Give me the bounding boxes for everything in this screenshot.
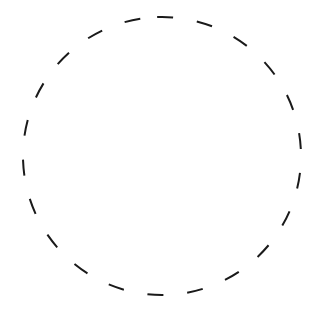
drawing-canvas — [0, 0, 319, 319]
dashed-circle — [18, 12, 306, 300]
